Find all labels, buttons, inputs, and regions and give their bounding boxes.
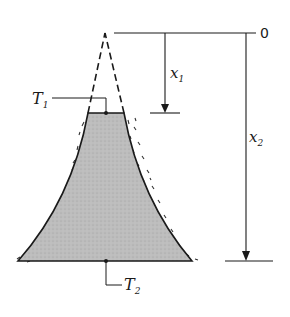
svg-text:x1: x1 xyxy=(170,64,184,84)
origin-label: 0 xyxy=(260,25,269,41)
x2-dimension: x2 xyxy=(225,33,273,261)
svg-text:T1: T1 xyxy=(32,89,48,110)
svg-text:x2: x2 xyxy=(249,128,263,148)
fin-body xyxy=(18,113,192,261)
arrow-down-icon xyxy=(161,104,169,113)
fin-diagram: 0 x1 x2 T1 T2 xyxy=(0,0,290,317)
x1-dimension: x1 xyxy=(150,33,184,113)
t2-marker: T2 xyxy=(104,259,141,296)
arrow-down-icon xyxy=(242,251,250,261)
t1-marker: T1 xyxy=(32,89,108,115)
svg-text:T2: T2 xyxy=(124,275,141,296)
